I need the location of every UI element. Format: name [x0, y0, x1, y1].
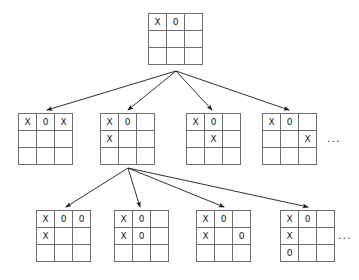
- cell-r1-c0[interactable]: X: [115, 228, 133, 245]
- cell-r2-c2[interactable]: [73, 245, 91, 262]
- board-n2-2[interactable]: X0X0: [114, 210, 169, 262]
- cell-r2-c2[interactable]: [151, 245, 169, 262]
- cell-r2-c0[interactable]: [149, 48, 167, 65]
- board-row: X0: [187, 114, 241, 131]
- cell-r1-c0[interactable]: [263, 131, 281, 148]
- cell-r1-c0[interactable]: X: [197, 228, 215, 245]
- cell-r2-c1[interactable]: [281, 148, 299, 165]
- cell-r2-c1[interactable]: [119, 148, 137, 165]
- cell-r1-c2[interactable]: [185, 31, 203, 48]
- cell-r1-c1[interactable]: [281, 131, 299, 148]
- cell-r0-c0[interactable]: X: [101, 114, 119, 131]
- cell-r2-c0[interactable]: [19, 148, 37, 165]
- board-row: [149, 48, 203, 65]
- cell-r2-c0[interactable]: [197, 245, 215, 262]
- cell-r1-c2[interactable]: [73, 228, 91, 245]
- cell-r1-c2[interactable]: [55, 131, 73, 148]
- board-row: X0: [281, 211, 335, 228]
- cell-r0-c1[interactable]: 0: [55, 211, 73, 228]
- cell-r0-c2[interactable]: [317, 211, 335, 228]
- cell-r0-c1[interactable]: 0: [299, 211, 317, 228]
- board-row: 0: [281, 245, 335, 262]
- cell-r0-c2[interactable]: [299, 114, 317, 131]
- cell-r0-c0[interactable]: X: [115, 211, 133, 228]
- cell-r1-c1[interactable]: [119, 131, 137, 148]
- cell-r0-c0[interactable]: X: [19, 114, 37, 131]
- cell-r2-c1[interactable]: [205, 148, 223, 165]
- cell-r2-c2[interactable]: [55, 148, 73, 165]
- cell-r1-c2[interactable]: [151, 228, 169, 245]
- cell-r1-c0[interactable]: X: [37, 228, 55, 245]
- cell-r2-c1[interactable]: [167, 48, 185, 65]
- cell-r2-c0[interactable]: 0: [281, 245, 299, 262]
- cell-r0-c1[interactable]: 0: [205, 114, 223, 131]
- cell-r1-c0[interactable]: [149, 31, 167, 48]
- board-n1-4[interactable]: X0X: [262, 113, 317, 165]
- cell-r2-c2[interactable]: [317, 245, 335, 262]
- cell-r1-c2[interactable]: [137, 131, 155, 148]
- cell-r2-c0[interactable]: [263, 148, 281, 165]
- board-n1-1[interactable]: X0X: [18, 113, 73, 165]
- cell-r1-c1[interactable]: [299, 228, 317, 245]
- cell-r1-c1[interactable]: [55, 228, 73, 245]
- cell-r0-c2[interactable]: [223, 114, 241, 131]
- cell-r1-c0[interactable]: X: [281, 228, 299, 245]
- cell-r2-c0[interactable]: [187, 148, 205, 165]
- board-n2-3[interactable]: X0X0: [196, 210, 251, 262]
- game-tree-diagram: X0X0XX0XX0XX0XX00XX0X0X0X0X0X0 ......: [0, 0, 359, 280]
- cell-r2-c1[interactable]: [37, 148, 55, 165]
- cell-r0-c0[interactable]: X: [187, 114, 205, 131]
- cell-r0-c2[interactable]: [137, 114, 155, 131]
- cell-r1-c1[interactable]: 0: [133, 228, 151, 245]
- cell-r2-c2[interactable]: [223, 148, 241, 165]
- cell-r1-c2[interactable]: [317, 228, 335, 245]
- cell-r0-c0[interactable]: X: [263, 114, 281, 131]
- cell-r1-c0[interactable]: X: [101, 131, 119, 148]
- arrow-e-n12-2: [128, 168, 140, 207]
- board-n1-3[interactable]: X0X: [186, 113, 241, 165]
- board-n2-1[interactable]: X00X: [36, 210, 91, 262]
- cell-r1-c2[interactable]: [223, 131, 241, 148]
- cell-r1-c1[interactable]: [37, 131, 55, 148]
- board-n2-4[interactable]: X0X0: [280, 210, 335, 262]
- cell-r2-c1[interactable]: [133, 245, 151, 262]
- board-row: X0: [115, 211, 169, 228]
- cell-r2-c0[interactable]: [37, 245, 55, 262]
- cell-r0-c0[interactable]: X: [281, 211, 299, 228]
- cell-r2-c2[interactable]: [233, 245, 251, 262]
- cell-r0-c0[interactable]: X: [197, 211, 215, 228]
- cell-r2-c2[interactable]: [137, 148, 155, 165]
- cell-r2-c2[interactable]: [185, 48, 203, 65]
- cell-r2-c1[interactable]: [299, 245, 317, 262]
- cell-r0-c2[interactable]: [233, 211, 251, 228]
- cell-r1-c2[interactable]: 0: [233, 228, 251, 245]
- cell-r0-c2[interactable]: 0: [73, 211, 91, 228]
- board-row: X: [101, 131, 155, 148]
- cell-r1-c2[interactable]: X: [299, 131, 317, 148]
- cell-r0-c0[interactable]: X: [37, 211, 55, 228]
- cell-r1-c1[interactable]: [167, 31, 185, 48]
- cell-r0-c1[interactable]: 0: [133, 211, 151, 228]
- cell-r0-c1[interactable]: 0: [281, 114, 299, 131]
- board-row: [37, 245, 91, 262]
- cell-r1-c1[interactable]: X: [205, 131, 223, 148]
- cell-r0-c1[interactable]: 0: [119, 114, 137, 131]
- cell-r0-c1[interactable]: 0: [215, 211, 233, 228]
- cell-r1-c0[interactable]: [187, 131, 205, 148]
- cell-r1-c0[interactable]: [19, 131, 37, 148]
- board-root[interactable]: X0: [148, 13, 203, 65]
- cell-r2-c0[interactable]: [101, 148, 119, 165]
- board-row: X0: [149, 14, 203, 31]
- cell-r0-c2[interactable]: [185, 14, 203, 31]
- cell-r0-c0[interactable]: X: [149, 14, 167, 31]
- cell-r2-c1[interactable]: [215, 245, 233, 262]
- board-n1-2[interactable]: X0X: [100, 113, 155, 165]
- cell-r2-c0[interactable]: [115, 245, 133, 262]
- cell-r1-c1[interactable]: [215, 228, 233, 245]
- cell-r0-c1[interactable]: 0: [167, 14, 185, 31]
- cell-r0-c2[interactable]: X: [55, 114, 73, 131]
- cell-r2-c2[interactable]: [299, 148, 317, 165]
- cell-r0-c1[interactable]: 0: [37, 114, 55, 131]
- cell-r0-c2[interactable]: [151, 211, 169, 228]
- cell-r2-c1[interactable]: [55, 245, 73, 262]
